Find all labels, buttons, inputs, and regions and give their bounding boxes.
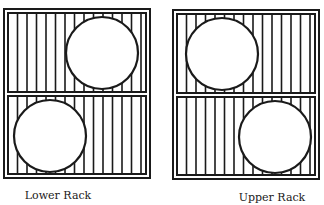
lower-rack-figure <box>4 9 150 178</box>
plate-circle <box>66 17 138 89</box>
plate-circle <box>239 101 311 173</box>
upper-rack-figure <box>173 10 319 179</box>
dish-rack-diagram <box>0 0 324 205</box>
upper-rack-label: Upper Rack <box>239 191 306 204</box>
lower-rack-label: Lower Rack <box>25 189 92 202</box>
plate-circle <box>14 100 86 172</box>
plate-circle <box>186 18 258 90</box>
